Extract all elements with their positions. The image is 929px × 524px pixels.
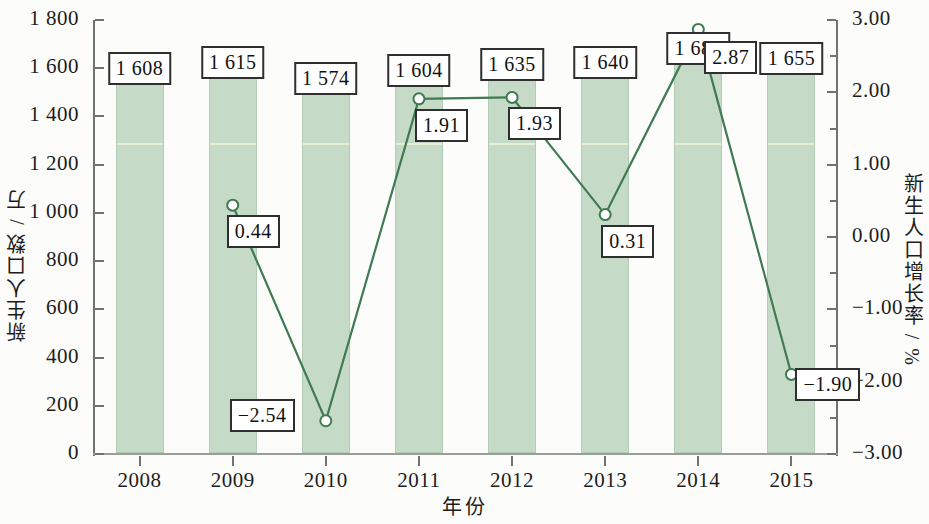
right-axis-title: 新生人口增长率 / % (898, 173, 927, 367)
left-axis-tick-label: 0 (68, 440, 93, 465)
left-axis-tick-label: 600 (46, 295, 93, 320)
x-axis-tick (139, 456, 141, 466)
line-marker[interactable] (413, 93, 424, 104)
right-axis-tick-label: −1.00 (838, 295, 903, 320)
x-axis-tick-label: 2012 (490, 468, 534, 493)
right-axis-tick-label: 1.00 (838, 151, 891, 176)
left-axis-tick-label: 1 600 (29, 54, 93, 79)
left-axis-tick-label: 1 800 (29, 6, 93, 31)
line-value-callout: 1.93 (508, 107, 561, 140)
left-axis-tick-label: 200 (46, 392, 93, 417)
line-marker[interactable] (320, 415, 331, 426)
left-axis-tick-label: 800 (46, 247, 93, 272)
chart-figure: 新生人口数 / 万 新生人口增长率 / % 年份 02004006008001 … (0, 0, 929, 524)
left-axis-tick-label: 400 (46, 344, 93, 369)
bar-value-callout: 1 655 (760, 42, 824, 75)
x-axis-tick-label: 2011 (397, 468, 440, 493)
left-axis-tick-label: 1 200 (29, 151, 93, 176)
x-axis-tick-label: 2013 (583, 468, 627, 493)
x-axis-tick (232, 456, 234, 466)
right-axis-tick-label: −3.00 (838, 440, 903, 465)
line-marker[interactable] (507, 92, 518, 103)
x-axis-tick (418, 456, 420, 466)
right-axis-tick-label: 3.00 (838, 6, 891, 31)
growth-rate-line-series (93, 20, 838, 456)
x-axis-tick (511, 456, 513, 466)
x-axis-tick (697, 456, 699, 466)
right-axis-tick-label: 2.00 (838, 78, 891, 103)
line-value-callout: −2.54 (230, 399, 295, 432)
left-axis-title: 新生人口数 / 万 (2, 188, 31, 342)
bar-value-callout: 1 574 (294, 62, 358, 95)
x-axis-tick-label: 2014 (676, 468, 720, 493)
bar-value-callout: 1 640 (573, 46, 637, 79)
bar-value-callout: 1 615 (201, 46, 265, 79)
plot-area: 02004006008001 0001 2001 4001 6001 800 −… (93, 20, 838, 455)
x-axis-tick-label: 2008 (118, 468, 162, 493)
x-axis-tick-label: 2010 (304, 468, 348, 493)
left-axis-tick-label: 1 400 (29, 102, 93, 127)
left-axis-tick-label: 1 000 (29, 199, 93, 224)
line-value-callout: 0.31 (601, 225, 654, 258)
line-value-callout: 1.91 (415, 109, 468, 142)
bar-value-callout: 1 635 (480, 48, 544, 81)
x-axis-tick-label: 2015 (769, 468, 813, 493)
line-value-callout: 2.87 (704, 41, 757, 74)
bar-value-callout: 1 604 (387, 54, 451, 87)
line-value-callout: −1.90 (795, 368, 860, 401)
x-axis-tick (604, 456, 606, 466)
right-axis-tick-label: 0.00 (838, 223, 891, 248)
x-axis-tick (790, 456, 792, 466)
x-axis-tick-label: 2009 (211, 468, 255, 493)
x-axis-title: 年份 (0, 491, 929, 520)
bar-value-callout: 1 608 (108, 52, 172, 85)
x-axis-tick (325, 456, 327, 466)
line-value-callout: 0.44 (227, 215, 280, 248)
line-marker[interactable] (227, 200, 238, 211)
line-marker[interactable] (600, 209, 611, 220)
